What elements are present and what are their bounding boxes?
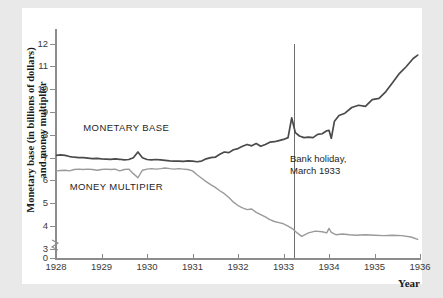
x-tick-1936	[420, 254, 421, 259]
series-line-money-multiplier	[56, 168, 418, 239]
x-tick-label-1931: 1931	[173, 261, 213, 272]
x-tick-label-1928: 1928	[36, 261, 76, 272]
series-line-monetary-base	[56, 55, 418, 162]
x-tick-label-1936: 1936	[400, 261, 440, 272]
y-tick-12	[50, 44, 55, 45]
bank-holiday-annotation: Bank holiday, March 1933	[290, 153, 346, 177]
x-tick-label-1935: 1935	[355, 261, 395, 272]
y-tick-label-wrap: 7	[14, 152, 48, 164]
x-tick-label-1930: 1930	[127, 261, 167, 272]
y-tick-3	[50, 249, 55, 250]
y-tick-label-10: 10	[18, 83, 48, 94]
y-tick-label-9: 9	[18, 106, 48, 117]
series-label-money-multiplier: MONEY MULTIPIER	[70, 181, 163, 192]
series-label-monetary-base: MONETARY BASE	[83, 122, 169, 133]
x-tick-label-1929: 1929	[82, 261, 122, 272]
x-tick-label-1932: 1932	[218, 261, 258, 272]
y-tick-7	[50, 158, 55, 159]
y-tick-11	[50, 66, 55, 67]
y-tick-label-11: 11	[18, 60, 48, 71]
x-axis-label: Year	[398, 277, 420, 289]
y-tick-label-wrap: 6	[14, 174, 48, 186]
y-tick-label-12: 12	[18, 38, 48, 49]
y-tick-6	[50, 180, 55, 181]
y-tick-label-wrap: 9	[14, 106, 48, 118]
y-tick-label-4: 4	[18, 220, 48, 231]
chart-figure: Monetary base (in billions of dollars) a…	[0, 0, 443, 298]
plot-area	[56, 30, 420, 258]
y-tick-label-5: 5	[18, 197, 48, 208]
y-tick-label-wrap: 4	[14, 220, 48, 232]
y-tick-label-8: 8	[18, 129, 48, 140]
y-tick-label-wrap: 10	[14, 83, 48, 95]
x-tick-label-1934: 1934	[309, 261, 349, 272]
y-tick-label-wrap: 5	[14, 197, 48, 209]
y-tick-label-6: 6	[18, 174, 48, 185]
y-tick-8	[50, 135, 55, 136]
y-tick-label-wrap: 12	[14, 38, 48, 50]
y-tick-label-wrap: 8	[14, 129, 48, 141]
y-tick-0	[50, 258, 55, 259]
y-tick-9	[50, 112, 55, 113]
y-tick-4	[50, 226, 55, 227]
y-tick-label-7: 7	[18, 152, 48, 163]
y-tick-label-wrap: 11	[14, 60, 48, 72]
y-tick-10	[50, 89, 55, 90]
y-tick-5	[50, 203, 55, 204]
x-tick-label-1933: 1933	[264, 261, 304, 272]
